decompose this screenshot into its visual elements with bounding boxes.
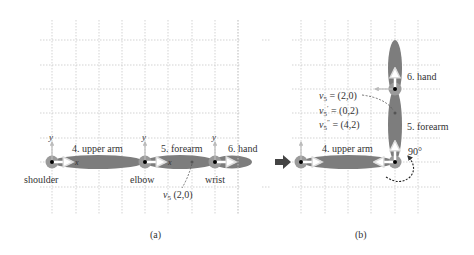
limb-label-hand: 6. hand bbox=[407, 71, 436, 82]
point-v5 bbox=[191, 161, 194, 164]
limb-label-hand: 6. hand bbox=[228, 143, 257, 154]
y-axis-label: y bbox=[48, 132, 53, 142]
limb-label-forearm: 5. forearm bbox=[161, 143, 203, 154]
point-v5-leader bbox=[362, 95, 393, 110]
joint-label-wrist: wrist bbox=[205, 174, 225, 185]
x-axis-label: x bbox=[167, 158, 172, 167]
limb-label-forearm: 5. forearm bbox=[407, 121, 449, 132]
point-v5 bbox=[394, 112, 397, 115]
x-axis-label: x bbox=[74, 158, 79, 167]
limb-label-upper-arm: 4. upper arm bbox=[322, 143, 373, 154]
rotation-label: 90° bbox=[408, 146, 422, 157]
y-axis-label: y bbox=[141, 132, 146, 142]
joint-label-shoulder: shoulder bbox=[24, 174, 59, 185]
equation-v5-prime: v5′ = (0,2) bbox=[319, 104, 358, 118]
limb-label-upper-arm: 4. upper arm bbox=[72, 143, 123, 154]
caption-a: (a) bbox=[150, 229, 161, 241]
panel-a-grid bbox=[40, 20, 240, 215]
joint-label-elbow: elbow bbox=[130, 174, 155, 185]
transition-arrow-icon bbox=[275, 155, 291, 169]
panel-a: y x y x y 4. upper arm 5. forearm 6. han… bbox=[24, 20, 257, 241]
caption-b: (b) bbox=[355, 229, 367, 241]
panel-b: 90° 4. upper arm 5. forearm 6. hand v5 =… bbox=[238, 20, 449, 241]
panel-b-grid bbox=[238, 20, 440, 215]
equation-v5: v5 = (2,0) bbox=[319, 90, 357, 103]
y-axis-label: y bbox=[211, 132, 216, 142]
point-v5-label: v5 (2,0) bbox=[163, 189, 193, 202]
kinematic-chain-figure: y x y x y 4. upper arm 5. forearm 6. han… bbox=[0, 0, 474, 255]
